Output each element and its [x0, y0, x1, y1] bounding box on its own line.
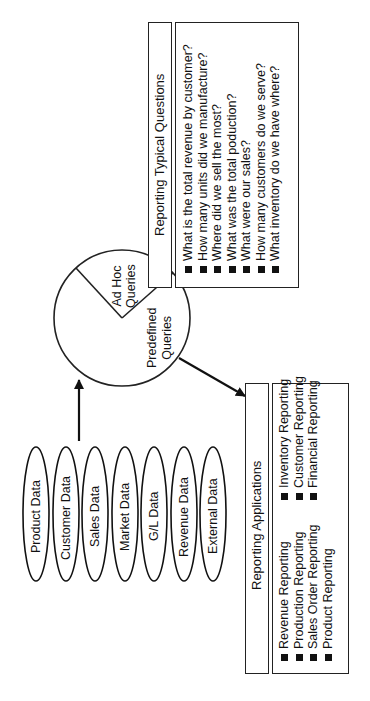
data-source-label: External Data [206, 478, 220, 554]
data-source-label: Product Data [29, 480, 43, 553]
bullet-icon [200, 266, 207, 273]
data-source-label: Revenue Data [177, 477, 191, 557]
question-item: How many units did we manufacture? [196, 53, 210, 273]
application-item: Sales Order Reporting [306, 525, 320, 661]
bullet-icon [310, 654, 317, 661]
application-item: Financial Reporting [306, 380, 320, 500]
application-item: Production Reporting [292, 532, 306, 661]
arrow-queries-to-applications [179, 358, 245, 396]
bullet-icon [281, 493, 288, 500]
data-source-label: Sales Data [88, 486, 102, 547]
bullet-icon [243, 266, 250, 273]
bullet-icon [258, 266, 265, 273]
bullet-icon [296, 493, 303, 500]
predefined-queries-label: Predefined Queries [145, 308, 175, 368]
data-source-label: Market Data [118, 483, 132, 551]
bullet-icon [296, 654, 303, 661]
reporting-applications-title: Reporting Applications [250, 461, 264, 590]
question-item: What inventory do we have where? [268, 66, 282, 273]
bullet-icon [229, 266, 236, 273]
bullet-icon [214, 266, 221, 273]
question-item: What were our sales? [239, 140, 253, 273]
question-item: What is the total revenue by customer? [181, 44, 195, 273]
application-item: Inventory Reporting [277, 379, 291, 500]
question-item: What was the total poduction? [225, 94, 239, 273]
application-item: Product Reporting [321, 548, 335, 661]
data-source-label: G/L Data [147, 491, 161, 541]
question-item: How many customers do we serve? [254, 63, 268, 273]
application-item: Revenue Reporting [277, 541, 291, 661]
bullet-icon [272, 266, 279, 273]
question-item: Where did we sell the most? [210, 104, 224, 273]
application-item: Customer Reporting [292, 376, 306, 500]
typical-questions-title: Reporting Typical Questions [153, 74, 167, 236]
data-source-label: Customer Data [59, 476, 73, 560]
bullet-icon [281, 654, 288, 661]
bullet-icon [325, 654, 332, 661]
bullet-icon [310, 493, 317, 500]
bullet-icon [185, 266, 192, 273]
ad-hoc-queries-label: Ad Hoc Queries [110, 264, 138, 308]
